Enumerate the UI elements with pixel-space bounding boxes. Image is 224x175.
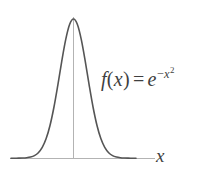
formula-exponent-minus: − [157,67,164,81]
formula-exponent: −x2 [157,67,175,81]
formula-variable: x [114,68,123,90]
x-axis-label: x [156,146,164,165]
gaussian-figure: f(x)=e−x2 x [0,0,224,175]
formula-equals-sign: = [133,68,145,90]
formula-exponent-power: 2 [170,65,175,75]
formula-annotation: f(x)=e−x2 [101,69,175,89]
formula-close-paren: ) [123,68,130,90]
formula-base-e: e [148,68,157,90]
formula-open-paren: ( [107,68,114,90]
